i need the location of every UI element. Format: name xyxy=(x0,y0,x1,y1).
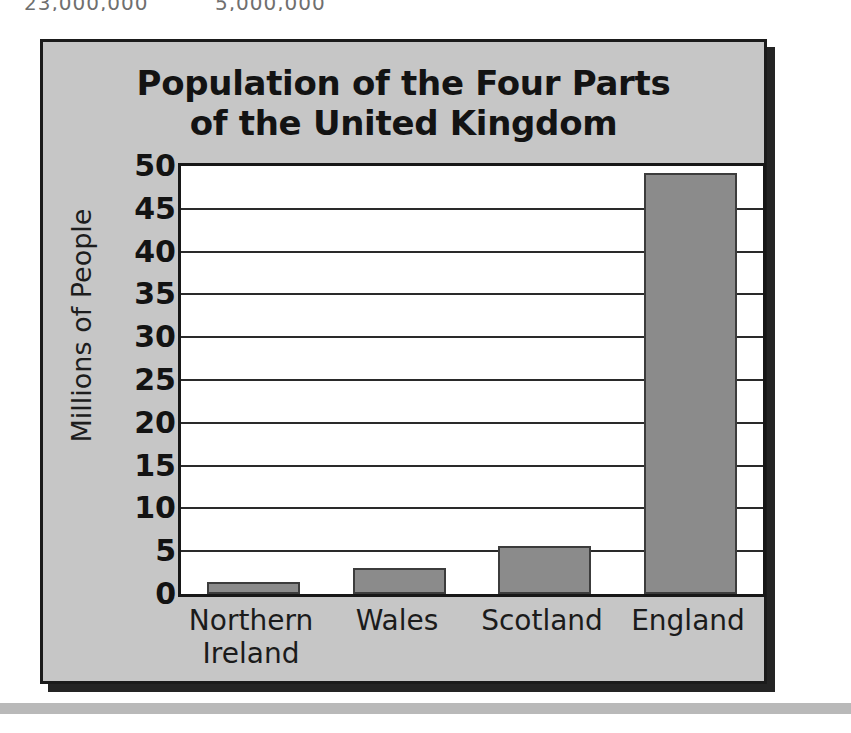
page-bottom-rule xyxy=(0,703,851,714)
x-tick-label-england: England xyxy=(615,604,761,637)
y-tick-label-50: 50 xyxy=(98,151,176,181)
y-tick-label-15: 15 xyxy=(98,451,176,481)
bar-wales[interactable] xyxy=(353,568,446,594)
fragment-right-number: 5,000,000 xyxy=(215,0,326,11)
y-tick-label-0: 0 xyxy=(98,579,176,609)
y-tick-label-35: 35 xyxy=(98,279,176,309)
figure-panel: Population of the Four Parts of the Unit… xyxy=(40,39,767,684)
y-tick-label-30: 30 xyxy=(98,322,176,352)
y-axis-title: Millions of People xyxy=(66,176,97,476)
y-tick-label-20: 20 xyxy=(98,408,176,438)
x-tick-label-scotland: Scotland xyxy=(469,604,615,637)
plot-area xyxy=(178,163,766,597)
plot-inner xyxy=(181,166,763,594)
y-tick-label-5: 5 xyxy=(98,536,176,566)
bar-scotland[interactable] xyxy=(498,546,591,594)
y-tick-label-10: 10 xyxy=(98,493,176,523)
x-tick-label-wales: Wales xyxy=(324,604,470,637)
cropped-text-fragment: 23,000,000 5,000,000 xyxy=(0,0,851,11)
y-tick-label-25: 25 xyxy=(98,365,176,395)
y-tick-label-45: 45 xyxy=(98,194,176,224)
bar-england[interactable] xyxy=(644,173,737,594)
fragment-left-number: 23,000,000 xyxy=(24,0,149,11)
x-axis-tick-labels: Northern IrelandWalesScotlandEngland xyxy=(178,604,766,682)
x-tick-label-northern-ireland: Northern Ireland xyxy=(178,604,324,670)
y-tick-label-40: 40 xyxy=(98,237,176,267)
bar-northern-ireland[interactable] xyxy=(207,582,300,594)
y-axis-tick-labels: 05101520253035404550 xyxy=(98,42,176,687)
